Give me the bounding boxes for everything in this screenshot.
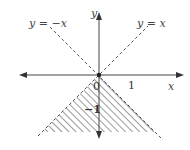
- y-axis-arrow-down-icon: [96, 131, 102, 139]
- x-axis-arrow-left-icon: [19, 72, 27, 78]
- x-axis-label: x: [168, 80, 175, 93]
- coordinate-plane-figure: y = −x y = x y x 0 1 −1: [0, 0, 190, 150]
- origin-point: [97, 73, 101, 77]
- y-tick-label: −1: [84, 103, 101, 116]
- origin-label: 0: [93, 80, 100, 93]
- x-tick-label: 1: [128, 79, 135, 92]
- label-y-equals-neg-x: y = −x: [28, 17, 68, 30]
- x-axis-arrow-right-icon: [176, 72, 184, 78]
- y-axis-label: y: [90, 7, 98, 20]
- graph-canvas: y = −x y = x y x 0 1 −1: [0, 0, 190, 150]
- label-y-equals-x: y = x: [136, 17, 166, 30]
